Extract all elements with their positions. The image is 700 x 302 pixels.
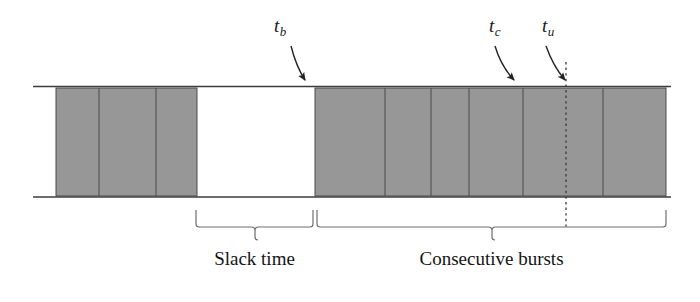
slack-time-caption: Slack time xyxy=(196,249,313,268)
slack-time-brace xyxy=(196,210,313,240)
t-c-label: tc xyxy=(489,16,501,38)
t-b-arrow xyxy=(291,46,305,80)
timeline-diagram: tb tc tu Slack time Consecutive bursts xyxy=(0,0,700,302)
t-u-arrow xyxy=(546,46,565,80)
first-burst-group xyxy=(56,88,197,196)
t-u-label: tu xyxy=(542,16,554,38)
t-b-label: tb xyxy=(274,16,286,38)
burst-block xyxy=(315,88,666,196)
burst-block xyxy=(56,88,197,196)
consecutive-burst-group xyxy=(315,88,666,196)
consecutive-bursts-brace xyxy=(317,210,666,240)
t-b-subscript: b xyxy=(279,24,286,39)
consecutive-bursts-caption: Consecutive bursts xyxy=(317,249,666,268)
t-c-subscript: c xyxy=(494,24,500,39)
t-c-arrow xyxy=(495,46,514,80)
t-u-subscript: u xyxy=(547,24,554,39)
